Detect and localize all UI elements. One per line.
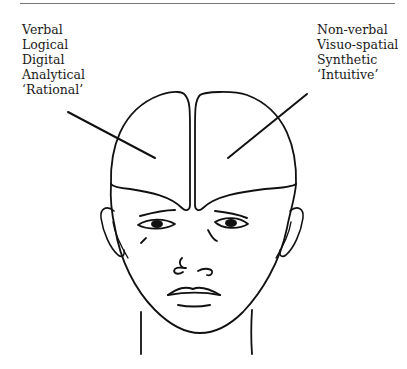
mouth-line (168, 293, 220, 295)
left-hemisphere-outline (111, 92, 190, 210)
right-pupil (225, 219, 237, 227)
head-illustration (0, 0, 407, 369)
left-eyebrow (140, 210, 175, 216)
right-ear (280, 208, 303, 256)
lower-lip (178, 305, 210, 307)
left-pointer-line (68, 112, 155, 158)
left-pupil (151, 220, 163, 228)
right-eye-crease (208, 230, 217, 241)
right-pointer-line (228, 94, 307, 158)
left-eye-crease (141, 238, 146, 243)
right-hemisphere-outline (195, 92, 296, 210)
face-outline (111, 184, 296, 333)
neck-right (251, 310, 252, 354)
nose-right (198, 269, 212, 276)
right-eyebrow (215, 211, 247, 218)
nose-left (174, 258, 186, 274)
